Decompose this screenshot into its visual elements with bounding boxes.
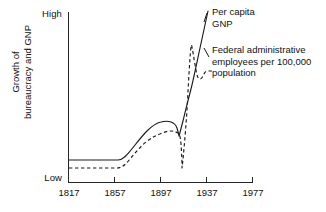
- x-tick-label-1937: 1937: [185, 187, 229, 198]
- x-axis-tick-labels: 1817 1857 1897 1937 1977: [0, 187, 326, 201]
- annotation-per-capita-gnp: Per capita GNP: [212, 6, 255, 29]
- annotation-federal-line2: employees per 100,000: [212, 56, 311, 68]
- x-tick-label-1817: 1817: [47, 187, 91, 198]
- x-tick-label-1977: 1977: [231, 187, 275, 198]
- annotation-federal-line1: Federal administrative: [212, 44, 311, 56]
- y-axis-low-label: Low: [26, 172, 62, 184]
- y-axis-title: Growth of bureaucracy and GNP: [10, 8, 34, 136]
- y-axis-title-line1: Growth of: [10, 8, 22, 136]
- series-per-capita-gnp: [69, 11, 208, 160]
- x-tick-label-1897: 1897: [139, 187, 183, 198]
- series-federal-employees: [69, 45, 213, 168]
- x-axis-ticks: [69, 177, 253, 183]
- annotation-gnp-line1: Per capita: [212, 6, 255, 18]
- annotation-gnp-line2: GNP: [212, 18, 255, 30]
- leader-federal: [204, 48, 209, 57]
- annotation-federal-line3: population: [212, 67, 311, 79]
- x-tick-label-1857: 1857: [93, 187, 137, 198]
- chart-figure: High Low Growth of bureaucracy and GNP 1…: [0, 0, 326, 212]
- y-axis-title-line2: bureaucracy and GNP: [22, 8, 34, 136]
- annotation-federal-employees: Federal administrative employees per 100…: [212, 44, 311, 79]
